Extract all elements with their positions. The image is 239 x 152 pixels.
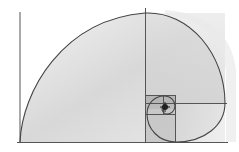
spiral-drawing [0, 0, 239, 152]
spiral-shading [20, 10, 236, 142]
golden-spiral-illustration: Fibonacci golden spiral sketch [0, 0, 239, 152]
